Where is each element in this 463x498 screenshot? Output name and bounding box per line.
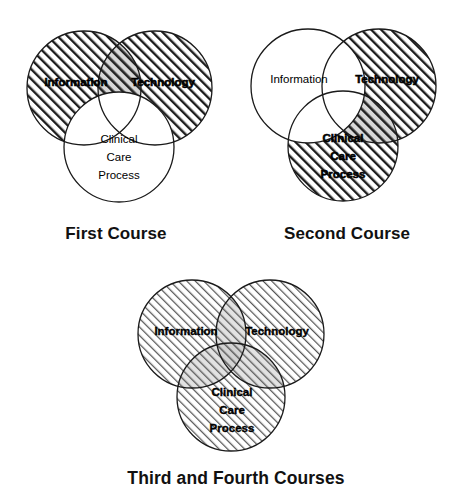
venn-figure-first-course: Information Technology Clinical Care Pro… <box>0 0 232 262</box>
label-information: Information <box>154 325 217 337</box>
venn-figure-second-course: Information Technology Clinical Care Pro… <box>231 0 463 262</box>
label-technology: Technology <box>355 73 419 85</box>
label-clinical-line-3: Process <box>210 422 255 434</box>
label-clinical-line-2: Care <box>219 404 245 416</box>
venn-diagram-second-course: Information Technology Clinical Care Pro… <box>231 0 463 228</box>
label-technology: Technology <box>131 76 195 88</box>
venn-diagram-first-course: Information Technology Clinical Care Pro… <box>0 0 232 228</box>
label-clinical-line-3: Process <box>98 169 140 181</box>
venn-figure-third-and-fourth-courses: Information Technology Clinical Care Pro… <box>116 262 356 498</box>
label-information: Information <box>44 76 107 88</box>
label-technology: Technology <box>245 325 309 337</box>
label-information: Information <box>270 73 328 85</box>
caption-third-and-fourth-courses: Third and Fourth Courses <box>116 468 356 489</box>
caption-first-course: First Course <box>0 224 232 244</box>
caption-second-course: Second Course <box>231 224 463 244</box>
label-clinical-line-3: Process <box>321 168 366 180</box>
label-clinical-line-1: Clinical <box>100 133 137 145</box>
label-clinical-line-2: Care <box>330 150 356 162</box>
label-clinical-line-2: Care <box>107 151 132 163</box>
label-clinical-line-1: Clinical <box>323 132 364 144</box>
venn-diagram-third-and-fourth-courses: Information Technology Clinical Care Pro… <box>116 262 356 470</box>
label-clinical-line-1: Clinical <box>212 386 253 398</box>
